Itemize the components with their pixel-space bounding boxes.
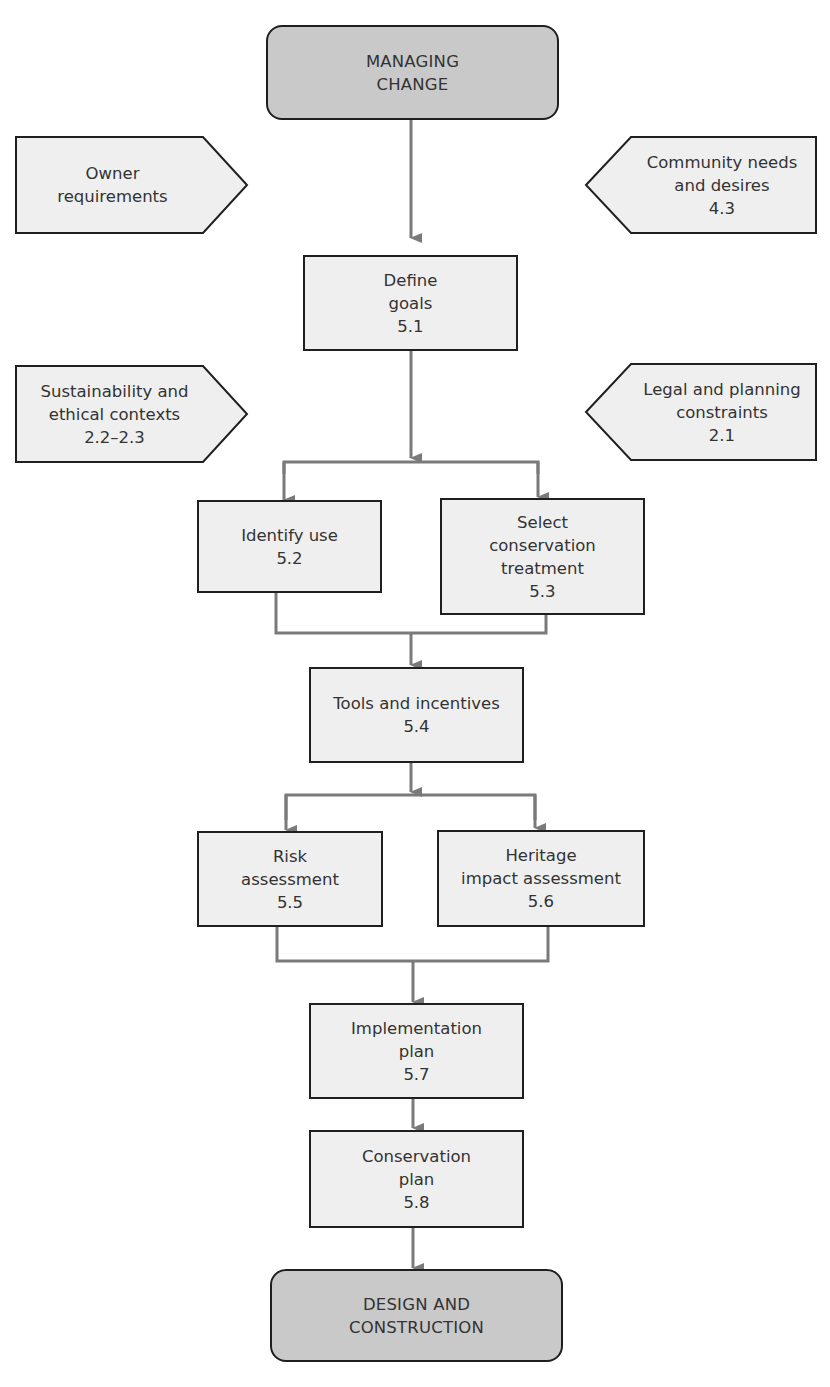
conservation-plan-line2: plan	[399, 1168, 435, 1191]
select-treatment-ref: 5.3	[529, 580, 555, 603]
identify-use-line1: Identify use	[241, 524, 338, 547]
start-line2: CHANGE	[377, 73, 449, 96]
conservation-plan-ref: 5.8	[403, 1191, 429, 1214]
input-owner-requirements: Owner requirements	[15, 136, 250, 234]
tools-line1: Tools and incentives	[333, 692, 499, 715]
owner-line2: requirements	[57, 185, 167, 208]
end-line2: CONSTRUCTION	[349, 1316, 484, 1339]
define-goals-ref: 5.1	[397, 315, 423, 338]
legal-line1: Legal and planning	[643, 378, 800, 401]
select-treatment-line2: conservation	[489, 534, 596, 557]
step-implementation-plan: Implementation plan 5.7	[309, 1003, 524, 1099]
step-select-conservation-treatment: Select conservation treatment 5.3	[440, 498, 645, 615]
heritage-line1: Heritage	[505, 844, 576, 867]
input-community-needs: Community needs and desires 4.3	[584, 136, 818, 234]
select-treatment-line1: Select	[517, 511, 568, 534]
community-ref: 4.3	[709, 197, 735, 220]
owner-line1: Owner	[86, 162, 140, 185]
step-heritage-impact-assessment: Heritage impact assessment 5.6	[437, 830, 645, 927]
select-treatment-line3: treatment	[501, 557, 584, 580]
risk-line1: Risk	[273, 845, 307, 868]
implementation-line1: Implementation	[351, 1017, 482, 1040]
conservation-plan-line1: Conservation	[362, 1145, 471, 1168]
start-terminal-managing-change: MANAGING CHANGE	[266, 25, 559, 120]
implementation-line2: plan	[399, 1040, 435, 1063]
start-line1: MANAGING	[366, 50, 459, 73]
community-line2: and desires	[674, 174, 769, 197]
heritage-line2: impact assessment	[461, 867, 621, 890]
step-tools-and-incentives: Tools and incentives 5.4	[309, 667, 524, 763]
define-goals-line2: goals	[389, 292, 433, 315]
input-legal-planning: Legal and planning constraints 2.1	[584, 363, 818, 461]
flowchart: MANAGING CHANGE Owner requirements Commu…	[0, 0, 830, 1387]
implementation-ref: 5.7	[403, 1063, 429, 1086]
step-conservation-plan: Conservation plan 5.8	[309, 1130, 524, 1228]
end-line1: DESIGN AND	[363, 1293, 470, 1316]
identify-use-ref: 5.2	[276, 547, 302, 570]
tools-ref: 5.4	[403, 715, 429, 738]
risk-line2: assessment	[241, 868, 339, 891]
step-identify-use: Identify use 5.2	[197, 500, 382, 593]
sustainability-line2: ethical contexts	[49, 403, 180, 426]
heritage-ref: 5.6	[528, 890, 554, 913]
end-terminal-design-and-construction: DESIGN AND CONSTRUCTION	[270, 1269, 563, 1362]
define-goals-line1: Define	[384, 269, 438, 292]
step-define-goals: Define goals 5.1	[303, 255, 518, 351]
sustainability-ref: 2.2–2.3	[84, 426, 145, 449]
legal-line2: constraints	[676, 401, 768, 424]
input-sustainability-ethical: Sustainability and ethical contexts 2.2–…	[15, 365, 250, 463]
legal-ref: 2.1	[709, 424, 735, 447]
sustainability-line1: Sustainability and	[40, 380, 188, 403]
step-risk-assessment: Risk assessment 5.5	[197, 831, 383, 927]
community-line1: Community needs	[647, 151, 798, 174]
risk-ref: 5.5	[277, 891, 303, 914]
